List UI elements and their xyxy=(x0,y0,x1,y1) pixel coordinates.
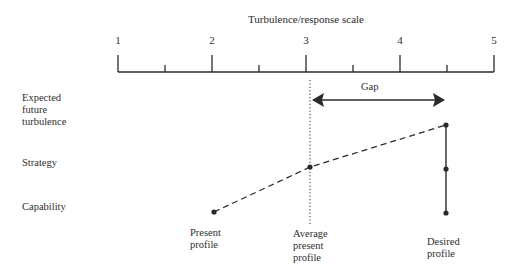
desired-capability-point xyxy=(443,210,448,215)
diagram-canvas xyxy=(0,0,516,274)
desired-turbulence-point xyxy=(443,122,448,127)
desired-profile-label: Desired profile xyxy=(427,236,460,260)
gap-arrow xyxy=(312,93,445,107)
present-profile-label: Present profile xyxy=(190,227,221,251)
average-profile-label: Average present profile xyxy=(293,228,328,264)
row-label-expected-turbulence: Expected future turbulence xyxy=(22,92,66,128)
present-capability-point xyxy=(211,209,216,214)
profile-points xyxy=(211,122,448,215)
scale-axis xyxy=(118,55,494,72)
desired-strategy-point xyxy=(443,166,448,171)
row-label-strategy: Strategy xyxy=(22,157,57,169)
gap-label: Gap xyxy=(361,81,379,93)
row-label-capability: Capability xyxy=(22,201,66,213)
present-profile-line xyxy=(214,125,446,212)
present-strategy-point xyxy=(307,164,312,169)
